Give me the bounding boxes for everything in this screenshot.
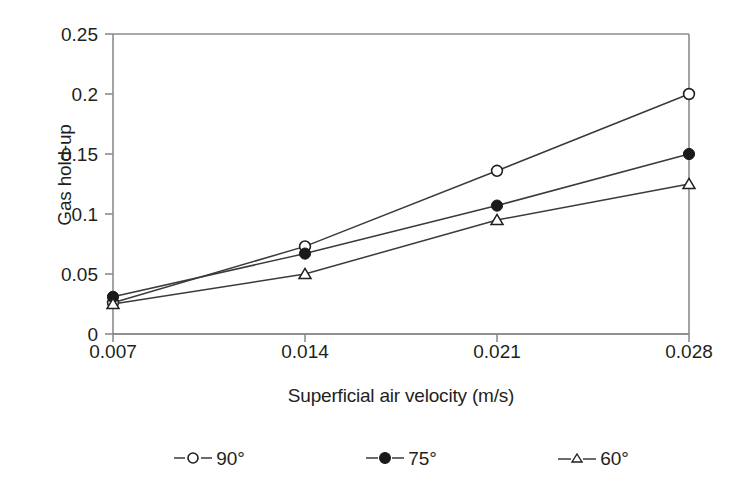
data-point [491, 200, 502, 211]
y-tick-marks [105, 34, 113, 334]
legend-item-60: 60° [557, 449, 629, 468]
x-tick-0.028: 0.028 [629, 342, 748, 364]
series-line-90deg [113, 94, 689, 303]
legend-item-75: 75° [365, 449, 437, 468]
data-point [299, 248, 310, 259]
x-tick-label: 0.014 [245, 342, 365, 361]
data-point [683, 178, 695, 188]
filled-circle-icon [365, 451, 405, 465]
x-tick-0.007: 0.007 [53, 342, 173, 364]
chart-legend: 90° 75° 60° [113, 443, 689, 473]
plot-canvas [0, 0, 748, 489]
series-line-75deg [113, 154, 689, 297]
legend-label: 75° [408, 449, 437, 468]
series-lines [113, 94, 689, 304]
open-triangle-icon [557, 451, 597, 465]
gas-holdup-line-chart: Gas hold-up 0.25 0.2 0.15 0.1 0.05 0 [0, 0, 748, 489]
axis-frame [113, 34, 689, 334]
x-tick-label: 0.007 [53, 342, 173, 361]
x-tick-0.021: 0.021 [437, 342, 557, 364]
x-tick-label: 0.028 [629, 342, 748, 361]
series-markers [107, 89, 695, 309]
x-tick-0.014: 0.014 [245, 342, 365, 364]
x-axis-title: Superficial air velocity (m/s) [113, 385, 689, 407]
legend-label: 90° [216, 449, 245, 468]
data-point [683, 148, 694, 159]
series-line-60deg [113, 184, 689, 304]
x-tick-marks [113, 334, 689, 342]
open-circle-icon [173, 451, 213, 465]
x-tick-label: 0.021 [437, 342, 557, 361]
legend-item-90: 90° [173, 449, 245, 468]
data-point [492, 165, 503, 176]
data-point [684, 89, 695, 100]
legend-label: 60° [600, 449, 629, 468]
